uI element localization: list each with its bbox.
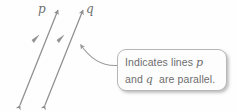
line-label-p: p <box>38 3 46 15</box>
callout-line2-variable: q <box>146 73 153 86</box>
callout-text: Indicates lines p and q are parallel. <box>125 54 222 88</box>
callout-line1-variable: p <box>196 56 203 69</box>
line-label-q: q <box>86 3 94 15</box>
callout-text-line-1: Indicates lines p <box>125 54 222 71</box>
callout-line2-text: and <box>125 73 143 85</box>
callout-line2-tail: are parallel. <box>159 73 215 85</box>
callout-box: Indicates lines p and q are parallel. <box>117 49 227 91</box>
parallel-lines-figure: p q Indicates lines p and q are parallel… <box>0 0 236 111</box>
callout-text-line-2: and q are parallel. <box>125 71 222 88</box>
line-q-tick-mark <box>57 35 64 42</box>
line-p-tick-mark <box>32 35 39 42</box>
line-p-group <box>20 10 58 105</box>
callout-line1-text: Indicates lines <box>125 56 193 68</box>
line-p <box>20 10 58 105</box>
line-q <box>45 10 83 105</box>
line-q-group <box>45 10 83 105</box>
callout-leader-line <box>81 45 118 66</box>
